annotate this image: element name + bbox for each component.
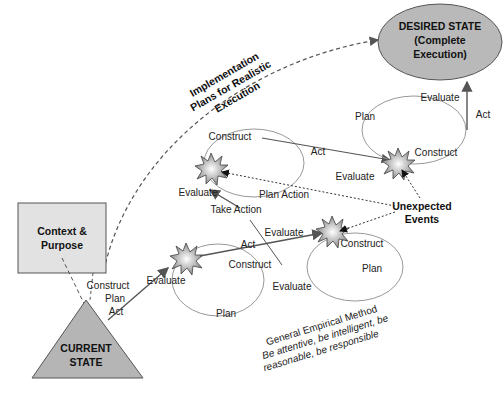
cycle1-act-label: Act [241, 239, 256, 250]
cycle4-evaluate-top-label: Evaluate [421, 92, 460, 103]
implementation-label: Implementation Plans for Realistic Execu… [182, 46, 280, 125]
desired-state-node: DESIRED STATE (Complete Execution) [378, 4, 502, 80]
cycle1-plan-label: Plan [216, 308, 236, 319]
desired-state-line2: (Complete [414, 34, 465, 46]
cycle1-evaluate-label: Evaluate [147, 275, 186, 286]
start-plan-label: Plan [105, 293, 125, 304]
desired-state-line3: Execution) [413, 48, 467, 60]
cycle2-evaluate-in-label: Evaluate [265, 227, 304, 238]
current-state-node: CURRENT STATE [32, 300, 143, 378]
cycle3-construct-label: Construct [209, 131, 252, 142]
svg-text:Context &: Context & [37, 225, 87, 237]
context-purpose-node: Context & Purpose [18, 203, 106, 273]
cycle4-act-label: Act [476, 109, 491, 120]
cycle4-evaluate-label: Evaluate [336, 171, 375, 182]
cycle4-construct-label: Construct [415, 147, 458, 158]
svg-text:STATE: STATE [70, 356, 103, 368]
cycle1-construct-label: Construct [229, 259, 272, 270]
unexpected-events-line2: Events [405, 213, 440, 225]
cycle2-evaluate-label: Evaluate [273, 281, 312, 292]
burst3-icon [195, 153, 228, 185]
desired-state-line1: DESIRED STATE [399, 20, 481, 32]
cycle3-take-action-label: Take Action [210, 204, 261, 215]
unexpected-to-burst4 [402, 170, 420, 198]
unexpected-events-line1: Unexpected [392, 200, 452, 212]
diagram: DESIRED STATE (Complete Execution) Imple… [0, 0, 504, 394]
svg-text:CURRENT: CURRENT [60, 342, 112, 354]
unexpected-to-burst2 [340, 212, 395, 231]
cycle3-plan-action-label: Plan Action [259, 189, 309, 200]
cycle2-plan-label: Plan [362, 263, 382, 274]
start-construct-label: Construct [87, 280, 130, 291]
cycle3-act-label: Act [311, 146, 326, 157]
burst4-icon [382, 148, 415, 180]
svg-text:Purpose: Purpose [41, 239, 83, 251]
cycle4-plan-label: Plan [355, 111, 375, 122]
general-empirical-method: General Empirical Method Be attentive, b… [255, 301, 393, 374]
cycle3-evaluate-label: Evaluate [179, 187, 218, 198]
